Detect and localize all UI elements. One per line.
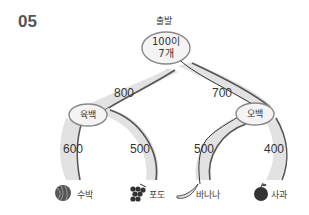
edge-label-right-left: 500 (194, 142, 214, 156)
grape-icon (130, 184, 146, 202)
edge-label-left-right: 500 (130, 142, 150, 156)
left-node-label: 육백 (72, 109, 104, 121)
edge-label-root-left: 800 (114, 86, 134, 100)
edge-label-left-left: 600 (63, 142, 83, 156)
banana-icon (177, 184, 198, 198)
root-node-line1: 100이 (146, 36, 186, 48)
apple-icon (254, 183, 268, 201)
root-node-line2: 7개 (146, 48, 186, 60)
edge-label-root-right: 700 (212, 86, 232, 100)
start-label: 출발 (156, 14, 172, 27)
leaf-label-watermelon: 수박 (77, 188, 93, 201)
watermelon-icon (55, 185, 71, 201)
leaf-label-grape: 포도 (149, 188, 165, 201)
leaf-label-apple: 사과 (271, 188, 287, 201)
root-node-text: 100이 7개 (146, 36, 186, 60)
edge-label-right-right: 400 (264, 142, 284, 156)
right-node-label: 오백 (239, 108, 271, 120)
leaf-label-banana: 바나나 (196, 188, 220, 201)
